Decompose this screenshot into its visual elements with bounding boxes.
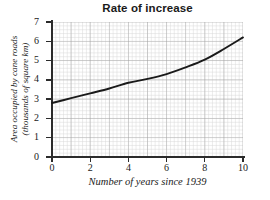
- x-tick-label-8: 8: [193, 162, 217, 173]
- x-axis-title: Number of years since 1939: [52, 176, 243, 187]
- y-axis-title: Area occupied by cane roads (thousands o…: [9, 14, 31, 164]
- chart-title: Rate of increase: [52, 2, 243, 14]
- x-tick-label-2: 2: [78, 162, 102, 173]
- x-tick-label-6: 6: [155, 162, 179, 173]
- y-axis-title-line1: Area occupied by cane roads: [9, 14, 20, 164]
- chart-figure: Rate of increase 01234567 0246810 Area o…: [0, 0, 270, 200]
- x-tick-label-4: 4: [116, 162, 140, 173]
- data-curve: [52, 22, 243, 157]
- x-tick-label-0: 0: [40, 162, 64, 173]
- y-axis-title-line2: (thousands of square km): [20, 14, 31, 164]
- x-tick-label-10: 10: [231, 162, 255, 173]
